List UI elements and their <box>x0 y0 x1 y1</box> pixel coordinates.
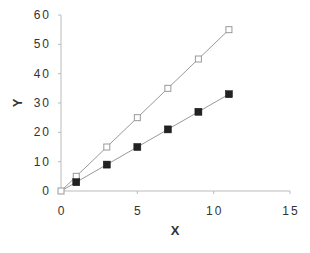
y-tick-label: 0 <box>42 184 51 198</box>
open-square-marker <box>226 27 232 33</box>
filled-square-marker <box>164 126 171 133</box>
x-tick-label: 10 <box>206 204 223 218</box>
y-tick-label: 30 <box>34 96 51 110</box>
axes: 0102030405060051015 <box>34 8 300 218</box>
y-tick-label: 40 <box>34 67 51 81</box>
open-square-marker <box>195 56 201 62</box>
open-squares-line <box>61 30 229 191</box>
series-lines <box>61 30 229 191</box>
filled-squares-line <box>61 94 229 191</box>
y-tick-label: 10 <box>34 155 51 169</box>
open-square-marker <box>58 188 64 194</box>
y-tick-label: 50 <box>34 37 51 51</box>
open-square-marker <box>134 115 140 121</box>
open-square-marker <box>73 173 79 179</box>
open-square-marker <box>104 144 110 150</box>
filled-square-marker <box>225 91 232 98</box>
filled-square-marker <box>73 179 80 186</box>
filled-square-marker <box>195 108 202 115</box>
filled-square-marker <box>134 144 141 151</box>
x-axis-label: X <box>171 223 180 238</box>
x-tick-label: 15 <box>282 204 299 218</box>
y-axis-label: Y <box>10 98 25 107</box>
x-tick-label: 5 <box>134 204 143 218</box>
y-tick-label: 20 <box>34 125 51 139</box>
filled-square-marker <box>103 161 110 168</box>
open-square-marker <box>165 85 171 91</box>
chart-plot: 0102030405060051015 X Y <box>0 0 310 253</box>
x-tick-label: 0 <box>58 204 67 218</box>
y-tick-label: 60 <box>34 8 51 22</box>
